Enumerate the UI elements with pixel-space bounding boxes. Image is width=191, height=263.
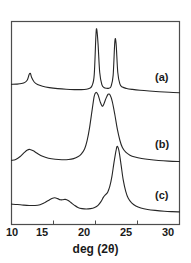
x-tick-label-3: 25 (114, 226, 138, 238)
x-tick-label-1: 15 (30, 226, 54, 238)
curve-label-a: (a) (155, 71, 168, 83)
curve-label-b: (b) (155, 138, 169, 150)
x-tick-label-4: 30 (156, 226, 180, 238)
curve-label-c: (c) (155, 189, 168, 201)
x-tick-label-2: 20 (72, 226, 96, 238)
x-axis-label: deg (2θ) (0, 242, 191, 256)
xrd-figure: 10 15 20 25 30 deg (2θ) (a) (b) (c) (0, 0, 191, 263)
x-tick-label-0: 10 (0, 226, 24, 238)
plot-area (0, 0, 191, 263)
